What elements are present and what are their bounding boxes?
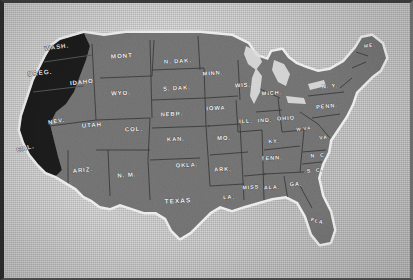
map-image: WASH.OREG.CAL.IDAHOMONTN. DAK.S. DAK.WYO… xyxy=(0,0,413,280)
united-states-map: WASH.OREG.CAL.IDAHOMONTN. DAK.S. DAK.WYO… xyxy=(0,0,413,280)
